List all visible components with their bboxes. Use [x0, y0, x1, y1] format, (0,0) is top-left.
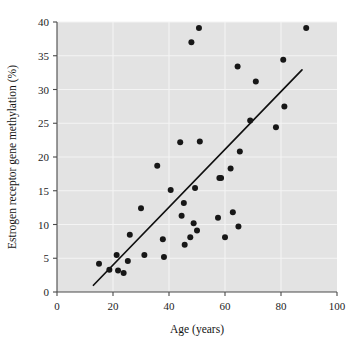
data-point	[230, 209, 236, 215]
data-point	[247, 118, 253, 124]
data-point	[181, 200, 187, 206]
data-point	[237, 149, 243, 155]
data-point	[192, 185, 198, 191]
y-tick-label: 0	[44, 286, 50, 298]
y-tick-label: 25	[38, 117, 50, 129]
data-point	[160, 236, 166, 242]
y-tick-label: 10	[38, 219, 50, 231]
data-point	[235, 224, 241, 230]
y-tick-label: 30	[38, 84, 50, 96]
data-point	[106, 267, 112, 273]
x-tick-label: 100	[329, 300, 346, 312]
data-point	[114, 252, 120, 258]
data-point	[273, 124, 279, 130]
data-point	[182, 242, 188, 248]
y-tick-label: 15	[38, 185, 50, 197]
data-point	[191, 220, 197, 226]
data-point	[96, 261, 102, 267]
x-tick-label: 20	[108, 300, 120, 312]
data-point	[235, 64, 241, 70]
x-tick-label: 0	[54, 300, 60, 312]
data-point	[121, 270, 127, 276]
data-point	[161, 254, 167, 260]
data-point	[253, 78, 259, 84]
data-point	[215, 215, 221, 221]
data-point	[188, 39, 194, 45]
data-point	[218, 175, 224, 181]
data-point	[179, 213, 185, 219]
y-tick-label: 5	[44, 252, 50, 264]
data-point	[168, 187, 174, 193]
data-point	[194, 228, 200, 234]
data-point	[125, 258, 131, 264]
y-tick-label: 40	[38, 16, 50, 28]
x-axis-title: Age (years)	[170, 323, 224, 336]
data-point	[138, 205, 144, 211]
x-tick-label: 80	[276, 300, 288, 312]
data-point	[187, 234, 193, 240]
scatter-plot-figure: 0510152025303540 020406080100 Age (years…	[0, 0, 356, 344]
y-axis-title: Estrogen receptor gene methylation (%)	[6, 65, 19, 249]
y-tick-label: 35	[38, 50, 50, 62]
data-point	[177, 139, 183, 145]
y-tick-label: 20	[38, 151, 50, 163]
data-point	[115, 267, 121, 273]
data-point	[154, 163, 160, 169]
x-tick-label: 40	[164, 300, 176, 312]
x-tick-label: 60	[220, 300, 232, 312]
data-point	[197, 138, 203, 144]
data-point	[141, 252, 147, 258]
data-point	[127, 232, 133, 238]
data-point	[228, 165, 234, 171]
data-point	[303, 25, 309, 31]
data-point	[280, 57, 286, 63]
chart-svg: 0510152025303540 020406080100 Age (years…	[0, 0, 356, 344]
data-point	[281, 103, 287, 109]
data-point	[222, 234, 228, 240]
data-point	[196, 25, 202, 31]
